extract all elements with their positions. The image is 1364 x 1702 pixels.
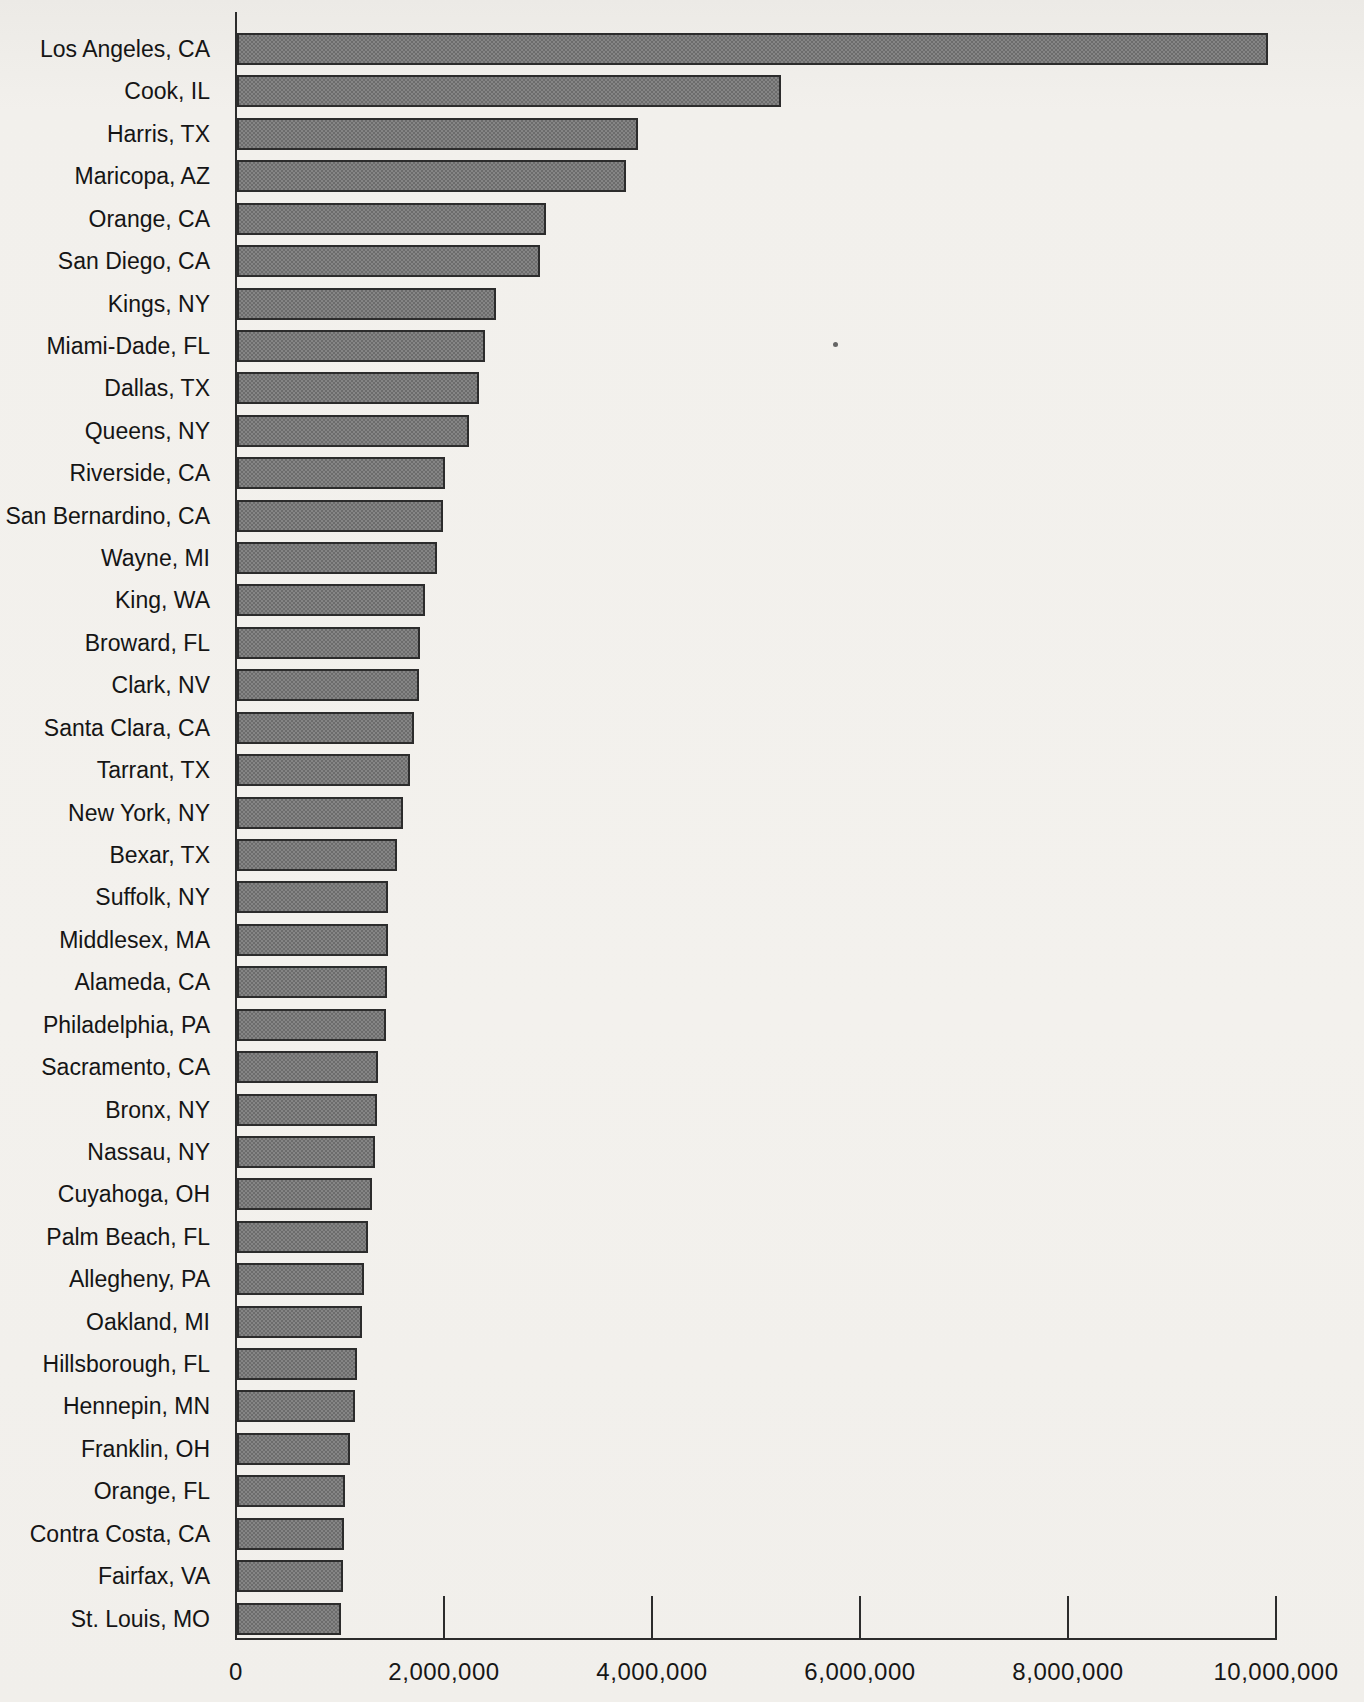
population-bar — [237, 288, 496, 320]
population-bar — [237, 669, 419, 701]
population-bar — [237, 924, 388, 956]
x-axis-tick — [651, 1596, 653, 1638]
x-axis-tick-label: 6,000,000 — [804, 1658, 915, 1686]
category-label: Cuyahoga, OH — [0, 1178, 210, 1210]
category-label: San Bernardino, CA — [0, 500, 210, 532]
category-label: Oakland, MI — [0, 1306, 210, 1338]
category-label: Tarrant, TX — [0, 754, 210, 786]
population-bar — [237, 1603, 341, 1635]
category-label: Maricopa, AZ — [0, 160, 210, 192]
x-axis-tick — [235, 1596, 237, 1638]
category-label: Contra Costa, CA — [0, 1518, 210, 1550]
population-bar — [237, 1136, 375, 1168]
population-bar — [237, 500, 443, 532]
x-axis-tick — [1067, 1596, 1069, 1638]
x-axis-tick — [859, 1596, 861, 1638]
population-bar — [237, 118, 638, 150]
x-axis-tick-label: 0 — [229, 1658, 243, 1686]
population-bar — [237, 1051, 378, 1083]
x-axis-tick-label: 10,000,000 — [1213, 1658, 1338, 1686]
population-bar — [237, 457, 445, 489]
category-label: Bexar, TX — [0, 839, 210, 871]
population-bar — [237, 1348, 357, 1380]
population-bar — [237, 1390, 355, 1422]
population-bar — [237, 1560, 343, 1592]
population-bar — [237, 1178, 372, 1210]
category-label: King, WA — [0, 584, 210, 616]
population-bar — [237, 1263, 364, 1295]
population-bar — [237, 1009, 386, 1041]
category-label: Hillsborough, FL — [0, 1348, 210, 1380]
population-bar — [237, 33, 1268, 65]
x-axis-tick-label: 8,000,000 — [1012, 1658, 1123, 1686]
category-label: Queens, NY — [0, 415, 210, 447]
x-axis-tick — [1275, 1596, 1277, 1638]
category-label: San Diego, CA — [0, 245, 210, 277]
population-bar — [237, 584, 425, 616]
category-label: St. Louis, MO — [0, 1603, 210, 1635]
population-bar — [237, 330, 485, 362]
category-label: Clark, NV — [0, 669, 210, 701]
population-bar — [237, 1094, 377, 1126]
category-label: Nassau, NY — [0, 1136, 210, 1168]
x-axis-tick-label: 2,000,000 — [388, 1658, 499, 1686]
population-bar — [237, 1518, 344, 1550]
category-label: Hennepin, MN — [0, 1390, 210, 1422]
category-label: Wayne, MI — [0, 542, 210, 574]
category-label: New York, NY — [0, 797, 210, 829]
category-label: Kings, NY — [0, 288, 210, 320]
category-label: Alameda, CA — [0, 966, 210, 998]
population-bar — [237, 160, 626, 192]
x-axis-tick — [443, 1596, 445, 1638]
category-label: Sacramento, CA — [0, 1051, 210, 1083]
population-bar — [237, 712, 414, 744]
category-label: Orange, FL — [0, 1475, 210, 1507]
category-label: Dallas, TX — [0, 372, 210, 404]
category-label: Orange, CA — [0, 203, 210, 235]
category-label: Miami-Dade, FL — [0, 330, 210, 362]
scan-speck — [833, 342, 838, 347]
population-bar — [237, 75, 781, 107]
category-label: Palm Beach, FL — [0, 1221, 210, 1253]
category-label: Fairfax, VA — [0, 1560, 210, 1592]
population-bar — [237, 203, 546, 235]
category-label: Harris, TX — [0, 118, 210, 150]
population-bar — [237, 881, 388, 913]
category-label: Suffolk, NY — [0, 881, 210, 913]
population-bar — [237, 839, 397, 871]
population-bar — [237, 1306, 362, 1338]
x-axis-tick-label: 4,000,000 — [596, 1658, 707, 1686]
category-label: Santa Clara, CA — [0, 712, 210, 744]
population-bar — [237, 797, 403, 829]
population-bar — [237, 1433, 350, 1465]
population-bar — [237, 415, 469, 447]
county-population-bar-chart: Los Angeles, CACook, ILHarris, TXMaricop… — [0, 0, 1364, 1702]
x-axis-line — [235, 1638, 1277, 1640]
population-bar — [237, 627, 420, 659]
category-label: Cook, IL — [0, 75, 210, 107]
category-label: Broward, FL — [0, 627, 210, 659]
population-bar — [237, 1475, 345, 1507]
population-bar — [237, 542, 437, 574]
population-bar — [237, 372, 479, 404]
category-label: Franklin, OH — [0, 1433, 210, 1465]
category-label: Bronx, NY — [0, 1094, 210, 1126]
category-label: Allegheny, PA — [0, 1263, 210, 1295]
category-label: Philadelphia, PA — [0, 1009, 210, 1041]
population-bar — [237, 1221, 368, 1253]
category-label: Riverside, CA — [0, 457, 210, 489]
category-label: Middlesex, MA — [0, 924, 210, 956]
category-label: Los Angeles, CA — [0, 33, 210, 65]
population-bar — [237, 754, 410, 786]
population-bar — [237, 966, 387, 998]
population-bar — [237, 245, 540, 277]
